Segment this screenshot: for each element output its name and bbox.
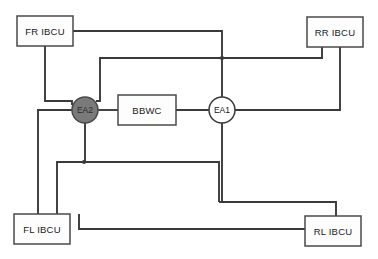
wire-fl-to-rl — [79, 214, 305, 229]
wire-layer — [38, 31, 340, 229]
node-fr-ibcu[interactable]: FR IBCU — [17, 16, 73, 46]
wire-mid-bus — [57, 162, 219, 202]
node-rl-ibcu[interactable]: RL IBCU — [305, 216, 361, 246]
rr-ibcu-label: RR IBCU — [315, 27, 355, 38]
fr-ibcu-label: FR IBCU — [25, 26, 64, 37]
wire-ea2-to-rr — [96, 47, 322, 101]
node-fl-ibcu[interactable]: FL IBCU — [14, 214, 70, 244]
junction-mid-bus — [82, 160, 86, 164]
diagram-canvas: FR IBCU RR IBCU BBWC FL IBCU RL IBCU EA2 — [0, 0, 378, 259]
node-ea1[interactable]: EA1 — [209, 97, 235, 123]
wire-rr-to-ea1-bus — [235, 47, 340, 110]
node-rr-ibcu[interactable]: RR IBCU — [307, 17, 363, 47]
wire-fr-to-ea1-trunk — [73, 31, 222, 97]
topology-diagram: FR IBCU RR IBCU BBWC FL IBCU RL IBCU EA2 — [0, 0, 378, 259]
wire-ea1-to-rl — [222, 123, 336, 216]
node-bbwc[interactable]: BBWC — [118, 95, 176, 125]
fl-ibcu-label: FL IBCU — [23, 224, 60, 235]
bbwc-label: BBWC — [132, 105, 161, 116]
wire-ea2-down-to-fl — [57, 123, 85, 214]
rl-ibcu-label: RL IBCU — [314, 226, 353, 237]
wire-fr-to-ea2 — [45, 46, 72, 105]
ea1-label: EA1 — [214, 105, 230, 115]
junction-top-bus — [220, 56, 224, 60]
ea2-label: EA2 — [77, 105, 93, 115]
node-ea2[interactable]: EA2 — [72, 97, 98, 123]
